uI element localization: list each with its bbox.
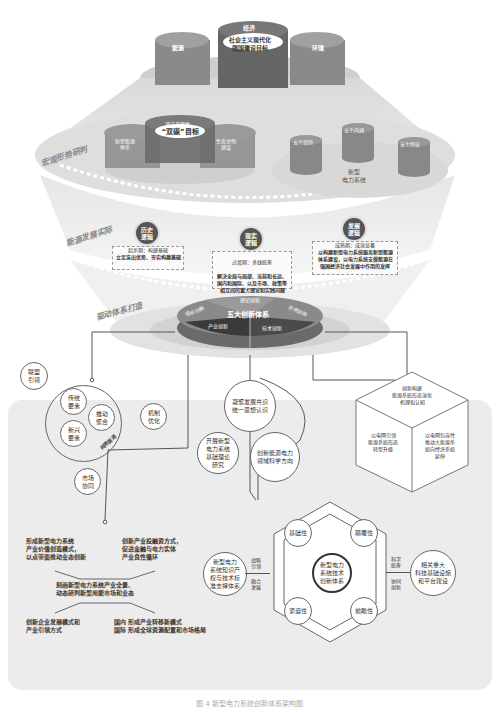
development-logic-box: 成熟期：成效显著 以构建新型电力系统服务新型能源 体系建设，以电力系统支撑能源在… bbox=[312, 241, 398, 275]
reality-logic-box: 过渡期：多线统筹 解决全局与局部、当前和长远、 国内和国际、以及市场、政策等 相… bbox=[212, 251, 292, 289]
left-link bbox=[245, 573, 270, 574]
five-connotation-label: 五个内涵 bbox=[344, 126, 364, 134]
basic-node: 基础性 bbox=[284, 519, 312, 547]
eco-civilization-label: 生态文明 建设 bbox=[216, 138, 236, 150]
domestic-label: 国内 bbox=[114, 618, 126, 625]
domestic-text: 形成产业转移新模式 bbox=[128, 618, 182, 625]
form-right-face: 以电网包容性 推动大能源系 统向经济系统 延伸 bbox=[412, 432, 468, 460]
clean-beauty-label: 清洁美丽性 bbox=[165, 120, 190, 128]
reality-desc: 解决全局与局部、当前和长远、 国内和国际、以及市场、政策等 相互间的重大理论和实… bbox=[213, 273, 291, 294]
basic-theory-node: 开展新型 电力系统 基础理论 研究 bbox=[197, 432, 239, 474]
industry-top-right: 创新产业投融资方式， 促进金融与电力实体 产业良性循环 bbox=[122, 537, 182, 561]
reality-sub: 过渡期：多线统筹 bbox=[213, 259, 291, 266]
intl-label: 国际 bbox=[114, 626, 126, 633]
traditional-factor-node: 传统 要素 bbox=[60, 388, 87, 415]
development-desc: 以构建新型电力系统服务新型能源 体系建设，以电力系统支撑能源在 强国经济社会发展… bbox=[313, 249, 397, 270]
reality-logic-badge: 现实 逻辑 bbox=[238, 226, 264, 252]
figure-caption: 图 4 新型电力系统创新体系架构图 bbox=[0, 700, 499, 708]
goal-label: 社会主义现代化 强国建设目标 bbox=[218, 36, 282, 52]
consensus-node: 凝聚发展共识 统一思想认识 bbox=[224, 380, 276, 432]
new-energy-system-label: 新型能源 体系 bbox=[115, 138, 135, 150]
intl-text: 形成全球资源配置和市场格局 bbox=[128, 626, 206, 633]
form-left-face: 以电网引领 能源系统形态 转型升级 bbox=[358, 432, 408, 453]
history-logic-box: 起步期：构建基础 立足突出优势、夯实构建基础 bbox=[112, 246, 184, 270]
aggregate-node: 推动 聚合 bbox=[88, 404, 115, 431]
industry-bottom-right: 国内 形成产业转移新模式 国际 形成全球资源配置和市场格局 bbox=[114, 618, 206, 634]
history-logic-badge: 历史 逻辑 bbox=[134, 220, 160, 246]
industry-top-left: 形成新型电力系统 产业价值创造模式， 以点带面推动业态创新 bbox=[26, 537, 86, 561]
development-sub: 成熟期：成效显著 bbox=[313, 242, 397, 249]
history-desc: 立足突出优势、夯实构建基础 bbox=[113, 254, 183, 261]
industry-center: 刻画新型电力系统产业全景、 动态研判新型用能市场和业态 bbox=[56, 581, 134, 597]
tech-innovation-center: 新型电力 系统技术 创新体系 bbox=[312, 553, 352, 593]
industry-bottom-left: 创新企业发展模式和 产业引领方式 bbox=[26, 618, 80, 634]
disruptive-node: 颠覆性 bbox=[350, 519, 378, 547]
energy-label: 能源 bbox=[172, 44, 184, 52]
market-synergy-node: 市场 协同 bbox=[74, 468, 101, 495]
right-link bbox=[386, 572, 410, 573]
five-innovation-center: 五大创新体系 bbox=[227, 311, 269, 319]
forward-node: 前瞻性 bbox=[350, 597, 378, 625]
form-top-face: 创新构建 能源系统形态演化 机理和认知 bbox=[375, 385, 449, 406]
collab-label: 协同 创新 bbox=[391, 578, 401, 590]
dual-carbon-goal: “双碳”目标 bbox=[160, 128, 200, 136]
science-plan-label: 科学 统筹 bbox=[391, 556, 401, 568]
development-logic-badge: 发展 逻辑 bbox=[341, 216, 367, 242]
strategy-lead-label: 战略 引领 bbox=[251, 557, 261, 569]
mechanism-optimize-node: 机制 优化 bbox=[140, 403, 167, 430]
emerging-factor-node: 新兴 要素 bbox=[60, 420, 87, 447]
infrastructure-node: 相关重大 科技基础设施 和平台建设 bbox=[410, 550, 456, 596]
history-sub: 起步期：构建基础 bbox=[113, 247, 183, 254]
science-direction-node: 创新能源电力 领域科学方向 bbox=[250, 432, 300, 482]
integration-label: 融合 发展 bbox=[251, 578, 261, 590]
new-power-system-title: 新型 电力系统 bbox=[334, 168, 374, 184]
urgent-node: 紧迫性 bbox=[284, 597, 312, 625]
economy-label: 经济 bbox=[243, 24, 255, 32]
five-feature-label: 五个特征 bbox=[400, 140, 420, 148]
five-persist-label: 五个坚持 bbox=[293, 138, 313, 146]
environment-label: 环境 bbox=[312, 44, 324, 52]
ip-standard-node: 新型电力 系统知识产 权与技术标 准支撑体系 bbox=[203, 552, 247, 596]
theory-innovation-segment: 理论创新 bbox=[240, 296, 260, 304]
alliance-lead-node: 联盟 引领 bbox=[20, 362, 48, 390]
